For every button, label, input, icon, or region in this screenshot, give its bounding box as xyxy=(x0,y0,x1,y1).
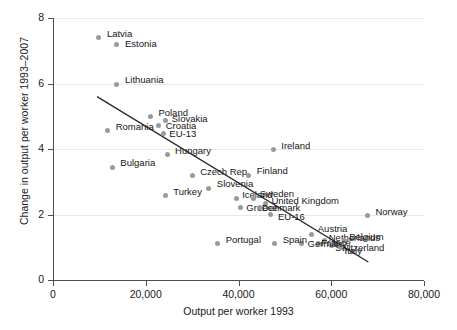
data-point-label: Estonia xyxy=(125,39,157,49)
data-point-label: Czech Rep. xyxy=(200,167,250,177)
x-axis-tick-label: 0 xyxy=(23,288,83,300)
data-point-label: Hungary xyxy=(175,146,211,156)
data-point-label: EU-16 xyxy=(278,212,305,222)
y-axis-tick xyxy=(48,149,53,150)
data-point-label: Spain xyxy=(283,235,307,245)
fit-line xyxy=(0,0,457,330)
y-axis-tick-label: 8 xyxy=(10,12,44,23)
x-axis-tick-label: 60,000 xyxy=(301,288,361,300)
x-axis-tick xyxy=(53,281,54,286)
data-point xyxy=(271,147,276,152)
y-axis-tick-label: 6 xyxy=(10,78,44,89)
data-point-label: Norway xyxy=(375,207,407,217)
data-point xyxy=(272,241,277,246)
data-point xyxy=(163,193,168,198)
x-axis-tick xyxy=(331,281,332,286)
scatter-chart-figure: Output per worker 1993 Change in output … xyxy=(0,0,457,330)
data-point xyxy=(238,205,243,210)
data-point-label: Germany xyxy=(308,239,347,249)
data-point xyxy=(234,196,239,201)
data-point xyxy=(110,165,115,170)
data-point-label: Slovenia xyxy=(217,179,253,189)
x-axis-tick-label: 40,000 xyxy=(209,288,269,300)
data-point-label: Portugal xyxy=(226,235,261,245)
x-axis-tick-label: 20,000 xyxy=(116,288,176,300)
data-point-label: Turkey xyxy=(173,187,202,197)
y-axis-tick xyxy=(48,18,53,19)
y-axis-tick xyxy=(48,84,53,85)
x-axis-tick xyxy=(239,281,240,286)
data-point-label: Ireland xyxy=(281,141,310,151)
data-point-label: Lithuania xyxy=(125,75,164,85)
data-point-label: Romania xyxy=(116,122,154,132)
x-axis-title: Output per worker 1993 xyxy=(53,305,424,317)
data-point xyxy=(215,241,220,246)
data-point-label: Bulgaria xyxy=(120,158,155,168)
x-axis-tick xyxy=(146,281,147,286)
data-point-label: Latvia xyxy=(107,29,132,39)
data-point xyxy=(246,173,251,178)
data-point xyxy=(161,131,166,136)
data-point-label: Finland xyxy=(257,166,288,176)
data-point-label: Belgium xyxy=(349,232,383,242)
x-axis-tick xyxy=(424,281,425,286)
y-axis-tick-label: 4 xyxy=(10,143,44,154)
x-axis-tick-label: 80,000 xyxy=(394,288,454,300)
data-point-label: EU-13 xyxy=(169,129,196,139)
y-axis-tick xyxy=(48,215,53,216)
data-point-label: Italy xyxy=(345,246,362,256)
y-axis-tick-label: 2 xyxy=(10,209,44,220)
y-axis-tick-label: 0 xyxy=(10,274,44,285)
